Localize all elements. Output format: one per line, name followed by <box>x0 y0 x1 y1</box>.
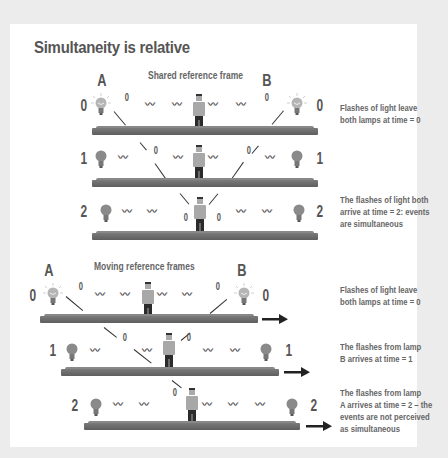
lightbulb-off-icon <box>289 200 309 226</box>
time-label: 2 <box>71 397 78 414</box>
light-wave-icon: 〰 <box>120 290 129 300</box>
light-pulse-right: 0 <box>187 333 191 343</box>
lightbulb-off-icon <box>256 339 276 365</box>
lightbulb-lit-icon <box>91 93 111 119</box>
caption-row-2: The flashes of light both arrive at time… <box>340 194 425 230</box>
light-wave-icon: 〰 <box>203 346 212 356</box>
lightbulb-lit-icon <box>234 283 254 309</box>
light-wave-icon: 〰 <box>173 153 182 163</box>
light-wave-icon: 〰 <box>228 400 237 410</box>
lightbulb-off-icon <box>86 394 106 420</box>
light-pulse-right: 0 <box>247 146 251 156</box>
lightbulb-off-icon <box>287 146 307 172</box>
caption-moving-row-0: Flashes of light leave both lamps at tim… <box>340 284 425 308</box>
right-arrow-icon <box>306 421 332 431</box>
light-wave-icon: 〰 <box>255 400 264 410</box>
right-arrow-icon <box>284 367 310 377</box>
light-pulse-right: 0 <box>265 93 269 103</box>
platform <box>40 316 258 323</box>
caption-row-0: Flashes of light leave both lamps at tim… <box>340 102 425 126</box>
light-wave-icon: 〰 <box>118 153 127 163</box>
platform <box>92 128 318 135</box>
light-wave-icon: 〰 <box>265 153 274 163</box>
light-wave-icon: 〰 <box>182 290 191 300</box>
lamp-a-label: A <box>44 262 53 280</box>
platform <box>92 180 318 187</box>
time-label: 0 <box>80 97 87 114</box>
light-wave-icon: 〰 <box>95 290 104 300</box>
lightbulb-off-icon <box>91 146 111 172</box>
light-pulse-right: 0 <box>217 213 221 223</box>
light-wave-icon: 〰 <box>236 100 245 110</box>
moving-frame-label: Moving reference frames <box>94 261 195 272</box>
light-wave-icon: 〰 <box>139 400 148 410</box>
light-wave-icon: 〰 <box>147 207 156 217</box>
lamp-a-label: A <box>97 72 106 90</box>
page-title: Simultaneity is relative <box>34 38 190 58</box>
time-label: 2 <box>80 203 87 220</box>
caption-moving-row-1: The flashes from lamp B arrives at time … <box>340 341 425 365</box>
light-wave-icon: 〰 <box>230 346 239 356</box>
lamp-b-label: B <box>262 72 271 90</box>
time-label: 1 <box>80 150 87 167</box>
lamp-b-label: B <box>237 262 246 280</box>
light-wave-icon: 〰 <box>157 290 166 300</box>
lightbulb-off-icon <box>96 200 116 226</box>
light-wave-icon: 〰 <box>113 400 122 410</box>
time-label: 0 <box>262 287 269 304</box>
time-label: 2 <box>316 203 323 220</box>
light-pulse-left: 0 <box>154 146 158 156</box>
platform <box>92 233 318 240</box>
lightbulb-off-icon <box>62 339 82 365</box>
light-pulse-left: 0 <box>173 388 177 398</box>
time-label: 0 <box>29 287 36 304</box>
light-wave-icon: 〰 <box>208 153 217 163</box>
light-pulse-left: 0 <box>123 333 127 343</box>
light-pulse-right: 0 <box>216 282 220 292</box>
right-arrow-icon <box>262 314 288 324</box>
light-wave-icon: 〰 <box>262 207 271 217</box>
shared-frame-label: Shared reference frame <box>148 70 243 81</box>
lightbulb-lit-icon <box>287 93 307 119</box>
light-wave-icon: 〰 <box>145 100 154 110</box>
light-pulse-left: 0 <box>125 93 129 103</box>
light-pulse-left: 0 <box>79 282 83 292</box>
light-pulse-left: 0 <box>184 213 188 223</box>
light-wave-icon: 〰 <box>202 400 211 410</box>
lightbulb-off-icon <box>282 394 302 420</box>
light-wave-icon: 〰 <box>236 207 245 217</box>
light-wave-icon: 〰 <box>208 100 217 110</box>
light-wave-icon: 〰 <box>142 346 151 356</box>
time-label: 1 <box>49 342 56 359</box>
light-wave-icon: 〰 <box>90 346 99 356</box>
time-label: 2 <box>310 397 317 414</box>
light-wave-icon: 〰 <box>172 100 181 110</box>
platform <box>61 369 279 376</box>
time-label: 1 <box>285 342 292 359</box>
platform <box>84 423 300 430</box>
time-label: 0 <box>316 97 323 114</box>
lightbulb-lit-icon <box>43 283 63 309</box>
time-label: 1 <box>316 150 323 167</box>
light-wave-icon: 〰 <box>122 207 131 217</box>
caption-moving-row-2: The flashes from lamp A arrives at time … <box>340 387 425 435</box>
